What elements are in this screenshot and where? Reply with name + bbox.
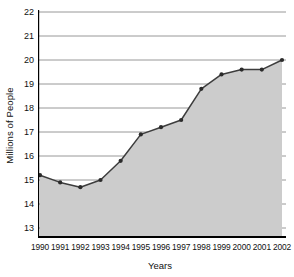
x-tick-label: 1996 bbox=[152, 243, 170, 251]
y-tick-label: 14 bbox=[18, 200, 34, 209]
data-point-marker bbox=[78, 185, 82, 189]
data-point-marker bbox=[280, 58, 284, 62]
data-point-marker bbox=[58, 180, 62, 184]
x-tick-label: 1991 bbox=[51, 243, 69, 251]
x-tick-label: 1994 bbox=[112, 243, 130, 251]
y-tick-label: 16 bbox=[18, 152, 34, 161]
data-point-marker bbox=[260, 68, 264, 72]
x-tick-label: 1990 bbox=[31, 243, 49, 251]
plot-area bbox=[38, 10, 286, 238]
chart-plot-svg bbox=[38, 10, 286, 238]
y-tick-label: 19 bbox=[18, 80, 34, 89]
x-tick-label: 2000 bbox=[233, 243, 251, 251]
data-point-marker bbox=[159, 125, 163, 129]
data-point-marker bbox=[119, 159, 123, 163]
x-axis-tick-labels: 1990199119921993199419951996199719981999… bbox=[0, 243, 294, 259]
data-point-marker bbox=[98, 178, 102, 182]
y-axis-title: Millions of People bbox=[0, 60, 18, 190]
x-axis-title: Years bbox=[0, 260, 294, 271]
y-axis-title-label: Millions of People bbox=[4, 87, 15, 163]
y-tick-label: 22 bbox=[18, 8, 34, 17]
data-point-marker bbox=[139, 132, 143, 136]
y-tick-label: 20 bbox=[18, 56, 34, 65]
y-tick-label: 15 bbox=[18, 176, 34, 185]
data-point-marker bbox=[219, 72, 223, 76]
x-tick-label: 1995 bbox=[132, 243, 150, 251]
x-tick-label: 1993 bbox=[91, 243, 109, 251]
x-axis-title-label: Years bbox=[122, 260, 172, 271]
data-point-marker bbox=[240, 68, 244, 72]
x-tick-label: 2001 bbox=[253, 243, 271, 251]
y-axis-tick-labels: 13141516171819202122 bbox=[18, 0, 34, 277]
data-point-marker bbox=[179, 118, 183, 122]
y-tick-label: 18 bbox=[18, 104, 34, 113]
y-tick-label: 21 bbox=[18, 32, 34, 41]
x-tick-label: 1992 bbox=[71, 243, 89, 251]
x-tick-label: 1998 bbox=[192, 243, 210, 251]
x-tick-label: 1997 bbox=[172, 243, 190, 251]
y-tick-label: 13 bbox=[18, 224, 34, 233]
x-tick-label: 1999 bbox=[212, 243, 230, 251]
data-point-marker bbox=[199, 87, 203, 91]
area-fill bbox=[40, 60, 282, 236]
line-area-chart: Millions of People 13141516171819202122 … bbox=[0, 0, 294, 277]
y-tick-label: 17 bbox=[18, 128, 34, 137]
x-tick-label: 2002 bbox=[273, 243, 291, 251]
